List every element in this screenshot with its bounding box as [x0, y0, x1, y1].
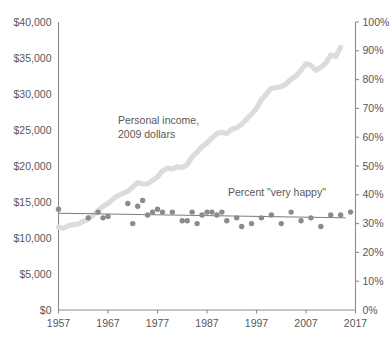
scatter-point	[194, 221, 199, 226]
x-tick-label: 1967	[96, 317, 120, 329]
x-tick-label: 1957	[47, 317, 71, 329]
right-axis-tick-labels: 0%10%20%30%40%50%60%70%80%90%100%	[363, 16, 390, 316]
income-annotation-line1: Personal income,	[118, 114, 199, 126]
right-tick-label: 100%	[363, 16, 390, 28]
scatter-point	[204, 209, 209, 214]
scatter-point	[199, 212, 204, 217]
scatter-point	[269, 212, 274, 217]
scatter-point	[95, 209, 100, 214]
x-axis-tick-labels: 1957196719771987199720072017	[47, 317, 368, 329]
scatter-point	[180, 218, 185, 223]
x-tick-label: 2017	[344, 317, 368, 329]
scatter-point	[259, 215, 264, 220]
x-tick-label: 2007	[294, 317, 318, 329]
left-tick-label: $5,000	[19, 268, 51, 280]
scatter-point	[130, 221, 135, 226]
scatter-point	[135, 204, 140, 209]
scatter-point	[279, 221, 284, 226]
right-tick-label: 40%	[363, 188, 384, 200]
scatter-point	[288, 209, 293, 214]
scatter-point	[150, 209, 155, 214]
personal-income-line	[59, 47, 341, 228]
right-tick-label: 20%	[363, 246, 384, 258]
scatter-point	[219, 209, 224, 214]
scatter-point	[170, 209, 175, 214]
very-happy-annotation: Percent "very happy"	[228, 186, 326, 198]
scatter-point	[348, 209, 353, 214]
right-tick-label: 60%	[363, 131, 384, 143]
x-tick-label: 1987	[195, 317, 219, 329]
x-tick-label: 1997	[245, 317, 269, 329]
left-tick-label: $0	[40, 304, 52, 316]
left-tick-label: $30,000	[14, 88, 52, 100]
income-happiness-chart: $0$5,000$10,000$15,000$20,000$25,000$30,…	[0, 0, 390, 338]
right-tick-label: 90%	[363, 44, 384, 56]
left-tick-label: $40,000	[14, 16, 52, 28]
scatter-point	[125, 201, 130, 206]
scatter-point	[86, 215, 91, 220]
left-tick-label: $15,000	[14, 196, 52, 208]
scatter-point	[105, 214, 110, 219]
left-axis-tick-labels: $0$5,000$10,000$15,000$20,000$25,000$30,…	[14, 16, 52, 316]
scatter-point	[239, 224, 244, 229]
scatter-point	[56, 207, 61, 212]
scatter-point	[140, 198, 145, 203]
scatter-point	[328, 212, 333, 217]
right-tick-label: 10%	[363, 275, 384, 287]
chart-container: $0$5,000$10,000$15,000$20,000$25,000$30,…	[0, 0, 390, 338]
scatter-point	[145, 212, 150, 217]
scatter-point	[209, 209, 214, 214]
scatter-point	[234, 215, 239, 220]
scatter-point	[160, 209, 165, 214]
scatter-point	[249, 221, 254, 226]
scatter-point	[318, 224, 323, 229]
scatter-point	[214, 212, 219, 217]
right-tick-label: 0%	[363, 304, 378, 316]
right-tick-label: 80%	[363, 73, 384, 85]
x-tick-label: 1977	[146, 317, 170, 329]
scatter-point	[338, 212, 343, 217]
scatter-point	[224, 218, 229, 223]
right-tick-label: 30%	[363, 217, 384, 229]
scatter-point	[155, 207, 160, 212]
scatter-point	[185, 218, 190, 223]
left-tick-label: $25,000	[14, 124, 52, 136]
left-tick-label: $35,000	[14, 52, 52, 64]
right-tick-label: 50%	[363, 160, 384, 172]
scatter-point	[298, 218, 303, 223]
income-annotation-line2: 2009 dollars	[118, 128, 175, 140]
left-tick-label: $10,000	[14, 232, 52, 244]
scatter-point	[100, 215, 105, 220]
left-tick-label: $20,000	[14, 160, 52, 172]
scatter-point	[189, 209, 194, 214]
right-tick-label: 70%	[363, 102, 384, 114]
scatter-point	[308, 215, 313, 220]
